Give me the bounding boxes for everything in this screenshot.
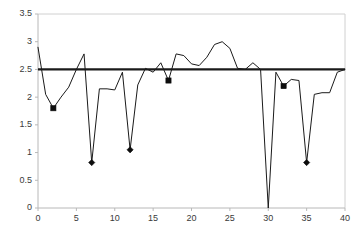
data-marker bbox=[166, 78, 171, 83]
y-tick-label: 3.5 bbox=[19, 8, 32, 18]
x-tick-label: 35 bbox=[302, 213, 312, 223]
data-marker bbox=[281, 83, 286, 88]
x-tick-label: 40 bbox=[340, 213, 350, 223]
x-tick-label: 15 bbox=[148, 213, 158, 223]
y-tick-label: 0 bbox=[27, 202, 32, 212]
x-tick-label: 20 bbox=[186, 213, 196, 223]
y-tick-label: 1.5 bbox=[19, 119, 32, 129]
x-tick-label: 25 bbox=[225, 213, 235, 223]
chart-background bbox=[0, 0, 359, 248]
y-tick-label: 2.5 bbox=[19, 64, 32, 74]
y-tick-label: 3 bbox=[27, 36, 32, 46]
line-chart: 00.511.522.533.5 0510152025303540 bbox=[0, 0, 359, 248]
x-tick-label: 5 bbox=[74, 213, 79, 223]
x-tick-label: 30 bbox=[263, 213, 273, 223]
chart-container: 00.511.522.533.5 0510152025303540 bbox=[0, 0, 359, 248]
y-tick-label: 2 bbox=[27, 92, 32, 102]
y-tick-label: 0.5 bbox=[19, 175, 32, 185]
x-tick-label: 10 bbox=[110, 213, 120, 223]
data-marker bbox=[51, 106, 56, 111]
x-tick-label: 0 bbox=[35, 213, 40, 223]
y-tick-label: 1 bbox=[27, 147, 32, 157]
